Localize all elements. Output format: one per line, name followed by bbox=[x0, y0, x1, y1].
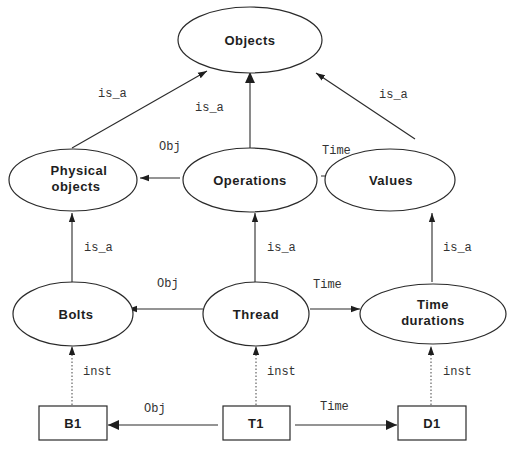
edge-t1-inst-thread: inst bbox=[256, 346, 296, 405]
edge-label-inst: inst bbox=[267, 365, 296, 379]
node-bolts: Bolts bbox=[13, 282, 133, 346]
edge-operations-obj-physical-objects: Obj bbox=[140, 140, 181, 178]
edge-t1-obj-b1: Obj bbox=[108, 402, 218, 425]
node-t1: T1 bbox=[223, 406, 290, 440]
edge-label-time: Time bbox=[322, 144, 351, 158]
edge-label-obj: Obj bbox=[157, 277, 179, 291]
edge-thread-is-a-operations: is_a bbox=[255, 213, 296, 282]
node-label-line2: objects bbox=[51, 179, 100, 194]
edge-operations-is-a-objects: is_a bbox=[195, 72, 250, 149]
node-label: Thread bbox=[233, 307, 279, 322]
edge-b1-inst-bolts: inst bbox=[72, 346, 112, 405]
node-label: Values bbox=[369, 173, 413, 188]
edge-label-is-a: is_a bbox=[98, 87, 127, 101]
edge-label-inst: inst bbox=[443, 365, 472, 379]
node-label-line1: Time bbox=[417, 297, 449, 312]
edge-label-time: Time bbox=[313, 278, 342, 292]
node-physical-objects: Physical objects bbox=[9, 149, 137, 211]
edge-label-is-a: is_a bbox=[195, 101, 224, 115]
node-label-line2: durations bbox=[401, 313, 465, 328]
node-label: B1 bbox=[64, 416, 82, 431]
edge-label-is-a: is_a bbox=[443, 241, 472, 255]
edge-label-obj: Obj bbox=[159, 140, 181, 154]
edge-label-is-a: is_a bbox=[379, 88, 408, 102]
node-objects: Objects bbox=[178, 7, 322, 73]
node-label: Bolts bbox=[59, 307, 94, 322]
edge-label-time: Time bbox=[320, 400, 349, 414]
node-label: Objects bbox=[224, 33, 275, 48]
node-thread: Thread bbox=[203, 282, 309, 346]
node-d1: D1 bbox=[398, 406, 466, 440]
edge-label-is-a: is_a bbox=[84, 241, 113, 255]
edge-bolts-is-a-physical-objects: is_a bbox=[72, 213, 113, 282]
node-operations: Operations bbox=[183, 148, 317, 212]
node-values: Values bbox=[325, 149, 455, 211]
node-label: D1 bbox=[423, 416, 441, 431]
node-label: T1 bbox=[248, 416, 264, 431]
edge-t1-time-d1: Time bbox=[295, 400, 397, 425]
edge-label-obj: Obj bbox=[144, 402, 166, 416]
node-b1: B1 bbox=[39, 406, 107, 440]
node-label: Operations bbox=[213, 173, 287, 188]
node-label-line1: Physical bbox=[51, 163, 108, 178]
edge-values-is-a-objects: is_a bbox=[316, 73, 415, 139]
ontology-diagram: is_a is_a is_a Obj Time is_a is_a is_a O… bbox=[0, 0, 518, 457]
edge-d1-inst-time-durations: inst bbox=[431, 346, 472, 405]
edge-label-is-a: is_a bbox=[267, 241, 296, 255]
edge-label-inst: inst bbox=[83, 365, 112, 379]
edge-time-durations-is-a-values: is_a bbox=[432, 213, 472, 282]
edge-physical-objects-is-a-objects: is_a bbox=[72, 71, 207, 148]
node-time-durations: Time durations bbox=[360, 284, 506, 344]
edge-thread-time-time-durations: Time bbox=[310, 278, 360, 309]
edge-thread-obj-bolts: Obj bbox=[128, 277, 203, 309]
